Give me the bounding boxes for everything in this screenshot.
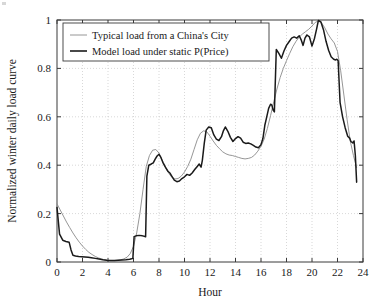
y-tick-label-0: 0: [46, 256, 52, 268]
y-tick-label-0.8: 0.8: [37, 62, 51, 74]
x-tick-label-2: 2: [80, 266, 86, 278]
x-tick-label-4: 4: [105, 266, 111, 278]
chart-legend: Typical load from a China's City Model l…: [63, 23, 269, 61]
x-tick-label-12: 12: [205, 266, 216, 278]
x-tick-label-20: 20: [307, 266, 319, 278]
x-tick-label-24: 24: [358, 266, 370, 278]
y-tick-label-0.4: 0.4: [37, 159, 51, 171]
y-tick-label-0.6: 0.6: [37, 111, 51, 123]
x-tick-label-14: 14: [230, 266, 242, 278]
y-axis-title: Normalized winter daily load curve: [6, 59, 19, 223]
y-tick-label-0.2: 0.2: [37, 208, 51, 220]
x-tick-label-6: 6: [131, 266, 137, 278]
scan-artifact: [2, 2, 6, 5]
figure-container: 024681012141618202224 00.20.40.60.81 Hou…: [0, 0, 388, 308]
x-tick-label-10: 10: [179, 266, 191, 278]
x-tick-label-22: 22: [332, 266, 343, 278]
x-tick-label-16: 16: [256, 266, 268, 278]
legend-label-model: Model load under static P(Price): [92, 46, 229, 58]
x-tick-label-8: 8: [156, 266, 162, 278]
x-tick-label-18: 18: [281, 266, 293, 278]
x-tick-label-0: 0: [54, 266, 60, 278]
y-tick-label-1: 1: [46, 14, 52, 26]
x-axis-tick-labels: 024681012141618202224: [54, 266, 369, 278]
load-curve-chart: 024681012141618202224 00.20.40.60.81 Hou…: [0, 0, 388, 308]
y-axis-tick-labels: 00.20.40.60.81: [37, 14, 51, 268]
legend-label-typical: Typical load from a China's City: [92, 30, 230, 41]
x-axis-title: Hour: [198, 286, 222, 298]
